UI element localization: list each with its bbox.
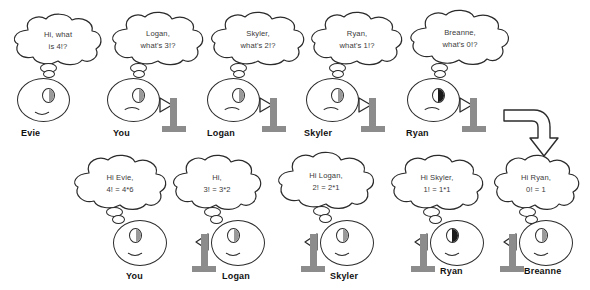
character-head xyxy=(107,78,160,122)
mouth-frown-icon xyxy=(122,107,142,115)
thought-bubble: Hi Logan, 2! = 2*1 xyxy=(272,152,380,210)
diagram-canvas: Hi, what is 4!? Evie Logan, what's 3!? xyxy=(0,0,590,290)
eye-icon xyxy=(331,88,344,103)
thought-bubble: Logan, what's 3!? xyxy=(106,12,210,66)
eye-icon xyxy=(129,228,142,243)
megaphone-stand-icon xyxy=(401,232,439,274)
eye-icon xyxy=(336,228,349,243)
thought-bubble: Hi Skyler, 1! = 1*1 xyxy=(385,155,489,211)
eye-icon xyxy=(432,88,445,103)
curved-down-arrow-icon xyxy=(500,105,566,161)
character-name: Logan xyxy=(222,271,250,281)
eye-icon xyxy=(132,88,145,103)
character-name: You xyxy=(113,128,130,138)
eye-icon xyxy=(232,88,245,103)
character-name: Ryan xyxy=(406,128,429,138)
thought-bubble: Hi, 3! = 3*2 xyxy=(167,155,267,211)
megaphone-stand-icon xyxy=(356,96,394,134)
eye-icon xyxy=(227,228,240,243)
character-name: Evie xyxy=(21,128,40,138)
character-head xyxy=(407,78,460,122)
character-name: Breanne xyxy=(524,266,561,276)
character-name: You xyxy=(126,271,143,281)
megaphone-stand-icon xyxy=(490,232,528,274)
thought-bubble: Hi Ryan, 0! = 1 xyxy=(488,155,584,211)
megaphone-stand-icon xyxy=(257,96,295,134)
megaphone-stand-icon xyxy=(157,96,195,134)
character-head xyxy=(113,220,167,266)
character-name: Skyler xyxy=(304,128,332,138)
mouth-frown-icon xyxy=(222,107,242,115)
megaphone-stand-icon xyxy=(182,232,220,274)
thought-bubble: Hi, what is 4!? xyxy=(8,14,108,66)
character-name: Logan xyxy=(207,128,235,138)
character-name: Ryan xyxy=(440,266,463,276)
megaphone-stand-icon xyxy=(457,96,495,134)
character-head xyxy=(306,78,359,122)
mouth-frown-icon xyxy=(321,107,341,115)
megaphone-stand-icon xyxy=(291,232,329,274)
mouth-frown-icon xyxy=(422,107,442,115)
character-name: Skyler xyxy=(330,271,358,281)
eye-icon xyxy=(42,88,55,103)
thought-bubble: Ryan, what's 1!? xyxy=(305,12,409,66)
thought-bubble: Breanne, what's 0!? xyxy=(404,10,516,66)
eye-icon xyxy=(446,228,459,243)
character-head xyxy=(17,78,70,122)
eye-icon xyxy=(535,228,548,243)
character-head xyxy=(207,78,260,122)
head-outline xyxy=(113,220,167,266)
thought-bubble: Hi Evie, 4! = 4*6 xyxy=(68,155,172,211)
thought-bubble: Skyler, what's 2!? xyxy=(205,12,311,66)
